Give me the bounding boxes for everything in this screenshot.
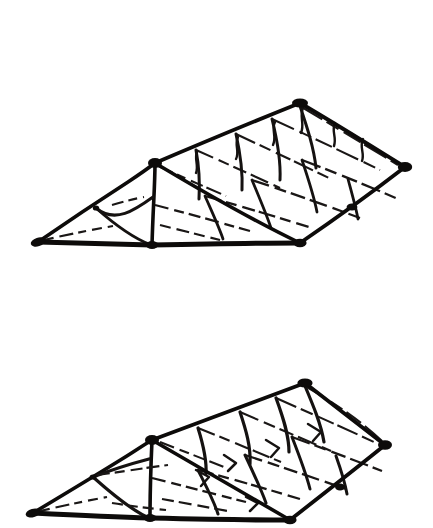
lower-roof-framing-diagram: [0, 0, 433, 528]
illustration-plate: [0, 0, 433, 528]
